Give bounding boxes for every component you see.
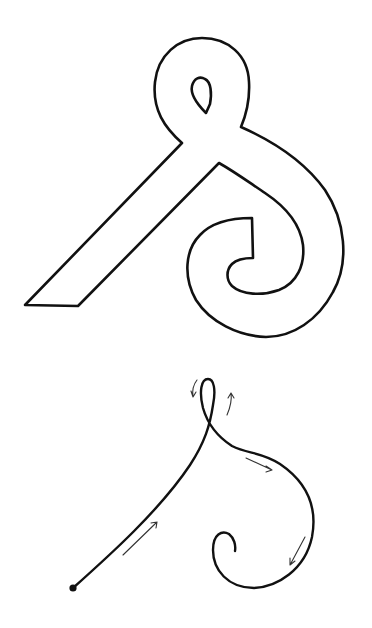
outer-contour: [25, 38, 343, 337]
loop-counter: [192, 78, 211, 113]
arrow-right-loop-icon: [227, 393, 234, 415]
letterform-outline: [25, 38, 343, 337]
direction-arrows: [123, 380, 305, 565]
arrow-curve-right-icon: [246, 458, 272, 472]
arrow-left-loop-icon: [191, 380, 197, 397]
start-point-icon: [69, 584, 76, 591]
pen-stroke: [73, 379, 313, 588]
stroke-path-diagram: [69, 379, 313, 592]
figure-canvas: [0, 0, 372, 628]
